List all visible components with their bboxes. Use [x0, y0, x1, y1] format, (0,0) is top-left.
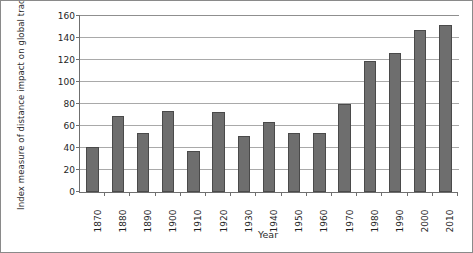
bar-slot	[357, 16, 382, 192]
bar-slot	[231, 16, 256, 192]
y-tick-label: 160	[58, 11, 75, 21]
x-label-slot: 1880	[105, 199, 130, 233]
x-label-slot: 1970	[332, 199, 357, 233]
x-label-slot: 2010	[433, 199, 458, 233]
x-label-slot: 1960	[307, 199, 332, 233]
bar	[137, 133, 149, 192]
y-tick-label: 0	[69, 187, 75, 197]
x-tick-slot	[332, 192, 357, 197]
x-tick-slot	[357, 192, 382, 197]
bar-slot	[256, 16, 281, 192]
y-tick-label: 100	[58, 77, 75, 87]
bar	[364, 61, 376, 192]
bar-slot	[105, 16, 130, 192]
bar-slot	[433, 16, 458, 192]
bar-series	[80, 16, 458, 192]
bar	[313, 133, 325, 192]
bar-slot	[408, 16, 433, 192]
bar	[389, 53, 401, 192]
bar-slot	[156, 16, 181, 192]
x-label-slot: 1930	[231, 199, 256, 233]
bar-slot	[382, 16, 407, 192]
y-tick-label: 80	[64, 99, 75, 109]
bar	[238, 136, 250, 192]
x-tick-slot	[382, 192, 407, 197]
bar-slot	[307, 16, 332, 192]
bar-slot	[332, 16, 357, 192]
x-label-slot: 1940	[256, 199, 281, 233]
x-axis-title: Year	[79, 229, 457, 240]
y-tick-label: 20	[64, 165, 75, 175]
y-tick-label: 40	[64, 143, 75, 153]
x-tick-slot	[206, 192, 231, 197]
x-tick-slot	[130, 192, 155, 197]
y-axis-title-label: Index measure of distance impact on glob…	[16, 0, 27, 209]
bar	[86, 147, 98, 192]
bar-chart-figure: Index measure of distance impact on glob…	[0, 0, 473, 253]
bar	[212, 112, 224, 192]
x-tick-slot	[433, 192, 458, 197]
x-label-slot: 1990	[382, 199, 407, 233]
bar	[338, 104, 350, 192]
y-axis-title: Index measure of distance impact on glob…	[1, 1, 41, 201]
y-tick-label: 120	[58, 55, 75, 65]
x-tick-slot	[156, 192, 181, 197]
bar	[112, 116, 124, 192]
x-label-slot: 1900	[156, 199, 181, 233]
x-axis-ticks	[80, 192, 458, 197]
x-tick-slot	[181, 192, 206, 197]
plot-area: 020406080100120140160 187018801890190019…	[79, 16, 458, 193]
x-axis-tick-labels: 1870188018901900191019201930194019501960…	[80, 199, 458, 233]
x-label-slot: 1920	[206, 199, 231, 233]
x-tick-slot	[105, 192, 130, 197]
x-tick-slot	[256, 192, 281, 197]
bar-slot	[206, 16, 231, 192]
bar-slot	[181, 16, 206, 192]
x-tick-slot	[282, 192, 307, 197]
x-label-slot: 1890	[130, 199, 155, 233]
x-label-slot: 2000	[408, 199, 433, 233]
x-label-slot: 1950	[282, 199, 307, 233]
x-label-slot: 1980	[357, 199, 382, 233]
bar	[162, 111, 174, 192]
x-tick-slot	[307, 192, 332, 197]
x-tick-slot	[408, 192, 433, 197]
x-label-slot: 1910	[181, 199, 206, 233]
bar	[263, 122, 275, 192]
bar	[414, 30, 426, 192]
x-tick-mark	[457, 192, 458, 196]
bar	[288, 133, 300, 192]
y-tick-label: 140	[58, 33, 75, 43]
x-tick-slot	[80, 192, 105, 197]
bar-slot	[80, 16, 105, 192]
bar-slot	[282, 16, 307, 192]
bar-slot	[130, 16, 155, 192]
bar	[439, 25, 451, 192]
y-tick-label: 60	[64, 121, 75, 131]
bar	[187, 151, 199, 192]
x-label-slot: 1870	[80, 199, 105, 233]
x-tick-slot	[231, 192, 256, 197]
